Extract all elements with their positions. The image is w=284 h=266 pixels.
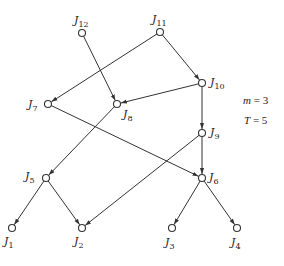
node-j7 (45, 101, 52, 108)
node-j3 (169, 225, 176, 232)
node-label-j1: J1 (4, 236, 14, 250)
edge-j6-to-j4 (204, 181, 235, 225)
edge-j11-to-j10 (162, 35, 199, 80)
parameter-m: m = 3 (243, 94, 268, 106)
node-j5 (43, 175, 50, 182)
node-label-j8: J8 (123, 109, 133, 123)
node-label-j3: J3 (165, 237, 175, 251)
node-j4 (234, 225, 241, 232)
edge-j12-to-j8 (84, 36, 116, 100)
node-label-j6: J6 (209, 172, 219, 186)
node-label-j2: J2 (74, 236, 84, 250)
parameter-t: T = 5 (244, 114, 267, 126)
precedence-graph-diagram: J1J2J3J4J5J6J7J8J9J10J11J12 m = 3T = 5 (0, 0, 284, 266)
node-label-j12: J12 (74, 15, 89, 29)
node-j11 (157, 29, 164, 36)
node-j12 (79, 30, 86, 37)
edge-j6-to-j3 (174, 181, 200, 225)
edge-j10-to-j8 (121, 84, 199, 103)
node-label-j10: J10 (210, 77, 225, 91)
node-label-j5: J5 (25, 171, 35, 185)
node-label-j11: J11 (152, 14, 167, 28)
node-j2 (79, 225, 86, 232)
node-label-j9: J9 (210, 127, 220, 141)
edge-j5-to-j1 (14, 181, 44, 225)
node-j8 (114, 101, 121, 108)
graph-edges-and-nodes (0, 0, 284, 266)
node-label-j7: J7 (28, 99, 38, 113)
edge-j11-to-j7 (51, 34, 157, 102)
edge-j5-to-j2 (48, 181, 80, 225)
node-j6 (199, 175, 206, 182)
node-j10 (199, 80, 206, 87)
node-j1 (9, 225, 16, 232)
node-j9 (199, 130, 206, 137)
edge-j8-to-j5 (49, 107, 115, 176)
node-label-j4: J4 (231, 237, 241, 251)
